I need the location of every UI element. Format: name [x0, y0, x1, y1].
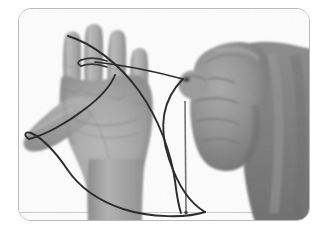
- photo-frame: Two hands holding a loop of string: the …: [18, 8, 310, 221]
- string-figure-photo: [19, 9, 310, 221]
- screenshot-root: Two hands holding a loop of string: the …: [0, 0, 330, 234]
- film-grain-overlay: [19, 9, 310, 221]
- photo-caption: Two hands holding a loop of string: the …: [18, 8, 19, 9]
